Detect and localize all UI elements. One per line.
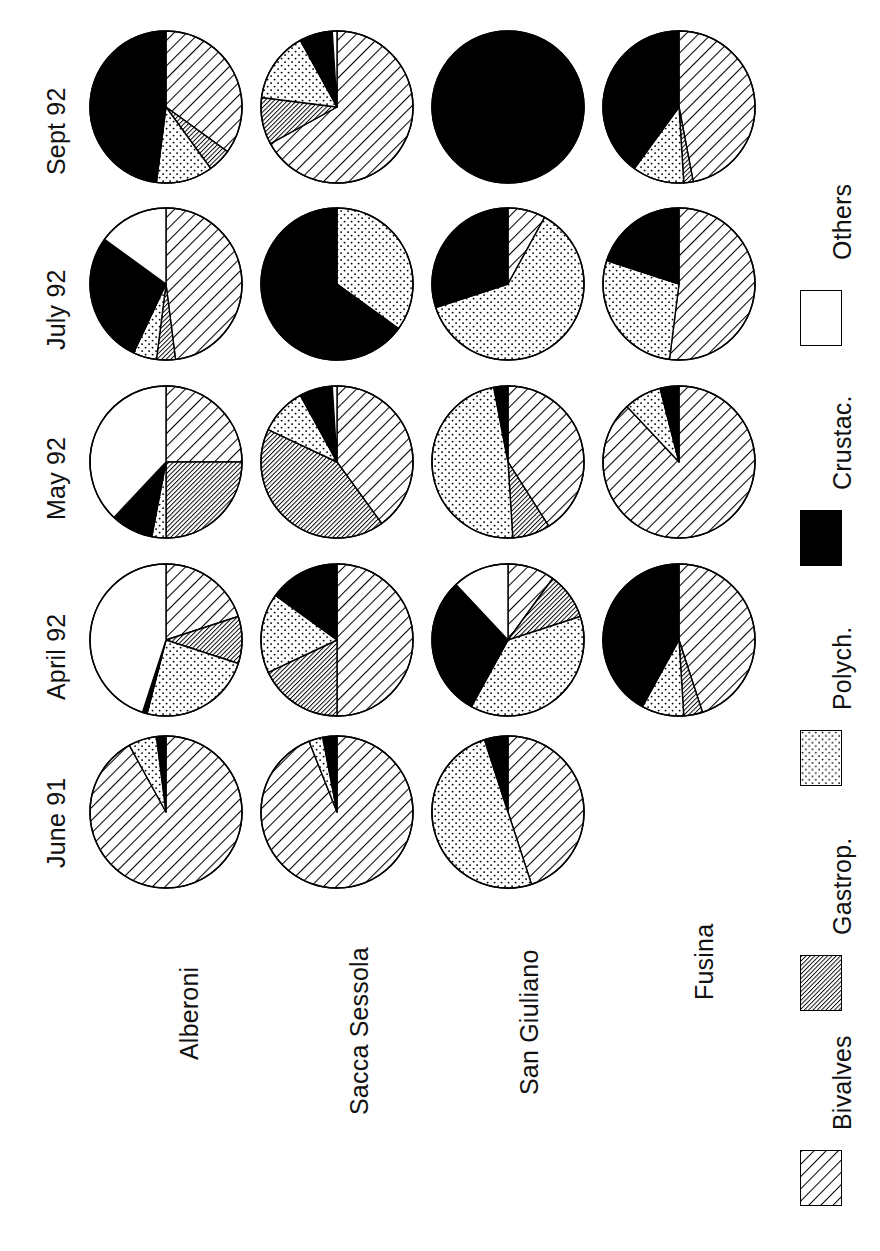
legend-label-crustac: Crustac. bbox=[828, 395, 857, 490]
pie-san-giuliano-april-92 bbox=[430, 562, 586, 718]
pie-alberoni-april-92 bbox=[88, 562, 244, 718]
pie-sacca-sessola-june-91 bbox=[259, 734, 415, 890]
date-label-may-92: May 92 bbox=[42, 437, 71, 520]
pie-alberoni-june-91 bbox=[88, 734, 244, 890]
pie-slice-bivalves bbox=[669, 208, 755, 360]
legend-label-polych: Polych. bbox=[828, 627, 857, 710]
date-label-april-92: April 92 bbox=[42, 614, 71, 700]
pie-alberoni-may-92 bbox=[88, 384, 244, 540]
pie-san-giuliano-june-91 bbox=[430, 734, 586, 890]
legend-label-others: Others bbox=[828, 184, 857, 260]
pie-fusina-may-92 bbox=[601, 384, 757, 540]
date-label-june-91: June 91 bbox=[42, 778, 71, 868]
site-label-alberoni: Alberoni bbox=[175, 967, 204, 1060]
pie-alberoni-july-92 bbox=[88, 206, 244, 362]
pie-fusina-sept-92 bbox=[601, 29, 757, 185]
pie-slice-bivalves bbox=[679, 31, 755, 182]
pie-san-giuliano-july-92 bbox=[430, 206, 586, 362]
pie-slice-crustac bbox=[90, 31, 166, 182]
pie-slice-bivalves bbox=[337, 564, 413, 716]
pie-sacca-sessola-april-92 bbox=[259, 562, 415, 718]
legend-swatch-gastrop bbox=[800, 955, 842, 1011]
pie-sacca-sessola-july-92 bbox=[259, 206, 415, 362]
site-label-fusina: Fusina bbox=[690, 924, 719, 1000]
pie-fusina-april-92 bbox=[601, 562, 757, 718]
legend-swatch-polych bbox=[800, 730, 842, 786]
figure-root: Sept 92 July 92 May 92 April 92 June 91 … bbox=[0, 0, 880, 1251]
pie-sacca-sessola-sept-92 bbox=[259, 29, 415, 185]
date-label-july-92: July 92 bbox=[42, 269, 71, 350]
pie-slice-bivalves bbox=[166, 386, 242, 462]
site-label-sacca-sessola: Sacca Sessola bbox=[345, 947, 374, 1115]
pie-san-giuliano-sept-92 bbox=[430, 29, 586, 185]
pie-sacca-sessola-may-92 bbox=[259, 384, 415, 540]
legend-swatch-crustac bbox=[800, 510, 842, 566]
legend-label-bivalves: Bivalves bbox=[828, 1035, 857, 1130]
legend-swatch-others bbox=[800, 290, 842, 346]
pie-slice-bivalves bbox=[166, 208, 242, 359]
pie-fusina-july-92 bbox=[601, 206, 757, 362]
pie-alberoni-sept-92 bbox=[88, 29, 244, 185]
date-label-sept-92: Sept 92 bbox=[42, 87, 71, 175]
pie-san-giuliano-may-92 bbox=[430, 384, 586, 540]
legend-swatch-bivalves bbox=[800, 1150, 842, 1206]
pie-slice-gastrop bbox=[166, 462, 242, 538]
legend-label-gastrop: Gastrop. bbox=[828, 838, 857, 935]
site-label-san-giuliano: San Giuliano bbox=[515, 949, 544, 1095]
